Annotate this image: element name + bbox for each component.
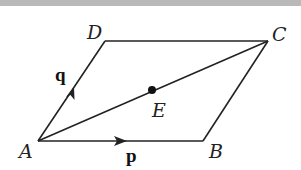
label-C: C [272,23,287,45]
label-vector-p: p [126,145,137,166]
label-E: E [151,99,166,121]
parallelogram-diagram: A B C D E q p [0,0,301,170]
label-D: D [86,21,102,43]
label-A: A [17,140,33,162]
label-B: B [208,140,223,162]
point-E-dot [148,86,156,94]
label-vector-q: q [55,64,66,85]
